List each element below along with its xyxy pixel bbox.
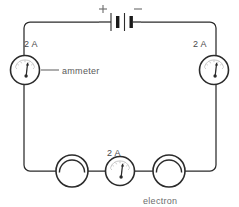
ammeter-right: [200, 56, 229, 85]
ammeter-bottom-reading-label: 2 A: [107, 148, 121, 158]
battery-terminal-plus-sign: [99, 5, 107, 13]
ammeter-right-reading-label: 2 A: [193, 39, 207, 49]
circuit-svg: [0, 0, 239, 207]
lamp-left: [56, 155, 88, 187]
battery-symbol: [99, 13, 141, 31]
lamp-right: [153, 155, 185, 187]
ammeter-left: [11, 56, 40, 85]
circuit-diagram-canvas: 2 A 2 A 2 A ammeter electron: [0, 0, 239, 207]
ammeter-left-reading-label: 2 A: [24, 39, 38, 49]
ammeter-callout-label: ammeter: [62, 66, 100, 76]
electron-label: electron: [143, 196, 177, 206]
ammeter-bottom: [106, 157, 135, 186]
